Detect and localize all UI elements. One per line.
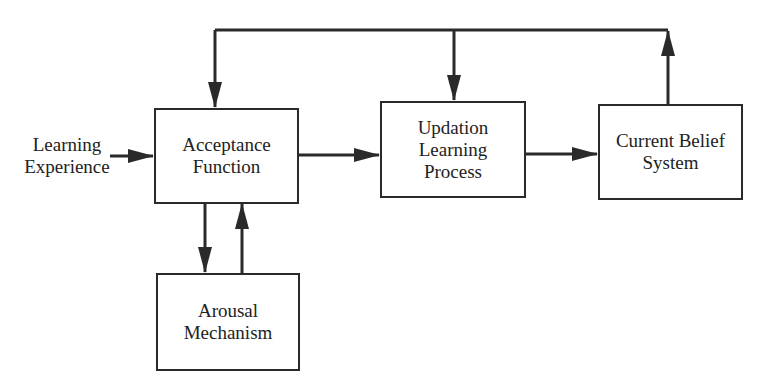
node-label: Function <box>182 156 271 178</box>
node-label: Mechanism <box>184 322 273 344</box>
node-label: System <box>616 152 725 174</box>
node-updation-learning-process: Updation Learning Process <box>380 101 526 198</box>
node-label: Arousal <box>184 300 273 322</box>
input-label-line: Experience <box>24 156 109 177</box>
node-label: Current Belief <box>616 130 725 152</box>
node-label: Process <box>418 161 489 183</box>
node-arousal-mechanism: Arousal Mechanism <box>156 273 300 371</box>
node-label: Learning <box>418 139 489 161</box>
node-current-belief-system: Current Belief System <box>598 104 743 200</box>
input-label-learning-experience: Learning Experience <box>22 134 112 178</box>
node-acceptance-function: Acceptance Function <box>154 108 299 204</box>
input-label-line: Learning <box>33 134 102 155</box>
node-label: Acceptance <box>182 134 271 156</box>
node-label: Updation <box>418 117 489 139</box>
